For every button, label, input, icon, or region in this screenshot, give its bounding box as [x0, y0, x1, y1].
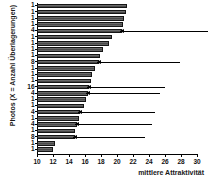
arrow-head-icon [75, 122, 79, 126]
x-tick-label: 20 [113, 158, 120, 165]
x-tick-mark [149, 154, 150, 157]
plot-area: 1111411118111164114141811 [37, 3, 197, 153]
arrow-head-icon [86, 91, 90, 95]
bar-chart-figure: Photos (X = Anzahl Überlagerungen) 11114… [0, 0, 209, 182]
arrow-shaft [120, 31, 208, 32]
bar [37, 147, 53, 152]
arrow-shaft [97, 62, 180, 63]
y-tick-mark [35, 149, 37, 150]
y-tick-mark [35, 111, 37, 112]
y-tick-mark [35, 55, 37, 56]
x-tick-mark [101, 154, 102, 157]
x-tick-mark [181, 154, 182, 157]
arrow-shaft [73, 137, 145, 138]
y-tick-mark [35, 74, 37, 75]
x-tick-mark [117, 154, 118, 157]
bar [37, 16, 124, 21]
bar [37, 10, 126, 15]
bar [37, 54, 100, 59]
arrow-shaft [87, 87, 165, 88]
y-tick-mark [35, 68, 37, 69]
x-tick-label: 12 [49, 158, 56, 165]
bar [37, 41, 109, 46]
y-tick-label: 1 [31, 146, 35, 153]
bar [37, 129, 75, 134]
x-tick-label: 10 [33, 158, 40, 165]
bar [37, 97, 86, 102]
arrow-shaft [86, 93, 160, 94]
bar [37, 79, 91, 84]
x-tick-label: 24 [145, 158, 152, 165]
y-tick-mark [35, 105, 37, 106]
arrow-shaft [78, 112, 155, 113]
bar [37, 60, 99, 65]
bar [37, 135, 75, 140]
y-tick-mark [35, 24, 37, 25]
x-tick-label: 22 [129, 158, 136, 165]
x-tick-mark [53, 154, 54, 157]
x-tick-label: 18 [97, 158, 104, 165]
arrow-head-icon [87, 85, 91, 89]
bar [37, 66, 95, 71]
x-tick-label: 30 [193, 158, 200, 165]
x-tick-mark [69, 154, 70, 157]
arrow-head-icon [78, 110, 82, 114]
y-tick-mark [35, 130, 37, 131]
y-tick-mark [35, 43, 37, 44]
bar [37, 4, 127, 9]
bar [37, 35, 112, 40]
arrow-head-icon [73, 135, 77, 139]
y-tick-mark [35, 86, 37, 87]
y-tick-mark [35, 124, 37, 125]
x-tick-label: 26 [161, 158, 168, 165]
y-tick-mark [35, 36, 37, 37]
arrow-shaft [75, 124, 152, 125]
bar [37, 22, 123, 27]
bar [37, 72, 92, 77]
bar [37, 85, 89, 90]
x-tick-mark [165, 154, 166, 157]
bar [37, 116, 79, 121]
y-axis-title: Photos (X = Anzahl Überlagerungen) [9, 0, 16, 136]
bar [37, 110, 80, 115]
y-tick-mark [35, 80, 37, 81]
y-tick-mark [35, 61, 37, 62]
y-tick-mark [35, 49, 37, 50]
y-tick-mark [35, 93, 37, 94]
annotation-arrow [73, 135, 145, 140]
annotation-arrow [87, 85, 165, 90]
bar [37, 122, 77, 127]
y-tick-mark [35, 18, 37, 19]
y-tick-mark [35, 143, 37, 144]
annotation-arrow [120, 29, 208, 34]
annotation-arrow [97, 60, 180, 65]
x-tick-label: 14 [65, 158, 72, 165]
bar [37, 29, 122, 34]
bar [37, 91, 88, 96]
y-tick-mark [35, 30, 37, 31]
y-tick-mark [35, 11, 37, 12]
annotation-arrow [86, 91, 160, 96]
annotation-arrow [75, 122, 152, 127]
x-tick-mark [37, 154, 38, 157]
x-tick-mark [133, 154, 134, 157]
bar [37, 104, 84, 109]
annotation-arrow [78, 110, 155, 115]
x-axis-title: mittlere Attraktivität [138, 169, 204, 176]
x-tick-mark [197, 154, 198, 157]
y-tick-mark [35, 118, 37, 119]
y-tick-mark [35, 99, 37, 100]
bar [37, 141, 55, 146]
bar-row: 1 [37, 147, 197, 153]
arrow-head-icon [97, 60, 101, 64]
arrow-head-icon [120, 29, 124, 33]
y-tick-mark [35, 136, 37, 137]
bar [37, 47, 103, 52]
x-tick-label: 16 [81, 158, 88, 165]
x-tick-label: 28 [177, 158, 184, 165]
x-tick-mark [85, 154, 86, 157]
y-tick-mark [35, 5, 37, 6]
